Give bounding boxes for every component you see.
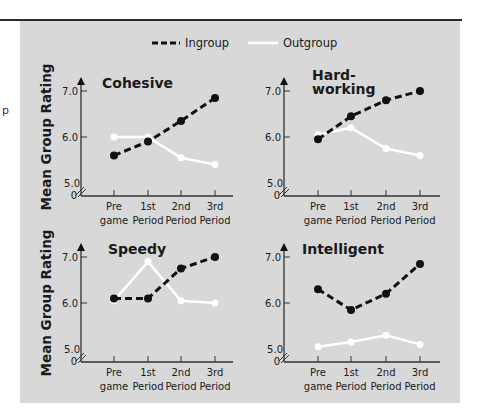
ingroup-point [416,260,424,268]
y-tick-label: 6.0 [265,132,281,143]
x-tick-label: Pre [106,201,122,212]
y-tick-label: 7.0 [265,252,281,263]
legend: IngroupOutgroup [152,36,337,50]
y-tick-label: 5.0 [267,344,283,355]
y-tick-label: 6.0 [265,298,281,309]
ingroup-point [177,117,185,125]
series-ingroup-line [318,264,420,310]
y-tick-label: 5.0 [64,178,80,189]
x-tick-label: 2nd [376,367,395,378]
ingroup-point [416,87,424,95]
outgroup-point [348,124,355,131]
ingroup-point [382,96,390,104]
outgroup-point [145,258,152,265]
outgroup-point [417,152,424,159]
y-tick-label: 7.0 [62,86,78,97]
y-tick-label: 6.0 [62,298,78,309]
x-tick-label: 3rd [207,201,224,212]
panel-title: Intelligent [302,241,384,257]
y-axis-title-top: Mean Group Rating [38,64,54,211]
ingroup-point [314,135,322,143]
x-tick-label: Period [199,215,230,226]
x-tick-label: Period [370,215,401,226]
legend-ingroup-label: Ingroup [185,36,229,50]
panel-speedy: 7.06.05.00Pregame1stPeriod2ndPeriod3rdPe… [62,241,233,392]
x-tick-label: Period [132,381,163,392]
x-tick-label: 1st [343,201,359,212]
panel-hardworking: 7.06.05.00Pregame1stPeriod2ndPeriod3rdPe… [265,67,440,226]
y-tick-label: 7.0 [265,86,281,97]
y-tick-label: 5.0 [64,344,80,355]
x-tick-label: Period [335,381,366,392]
x-tick-label: game [100,215,128,226]
outgroup-point [383,332,390,339]
y-tick-label: 7.0 [62,252,78,263]
ingroup-point [211,253,219,261]
outgroup-point [315,343,322,350]
panel-cohesive: 7.06.05.00Pregame1stPeriod2ndPeriod3rdPe… [62,75,233,226]
ingroup-point [144,138,152,146]
x-tick-label: 2nd [171,201,190,212]
outgroup-point [178,154,185,161]
figure-chart: IngroupOutgroup Mean Group RatingMean Gr… [0,0,483,420]
y-tick-label: 6.0 [62,132,78,143]
x-tick-label: 3rd [412,201,429,212]
outgroup-point [111,134,118,141]
outgroup-point [212,300,219,307]
panel-title: Cohesive [102,75,173,91]
y-axis-arrow-icon [77,77,85,85]
outgroup-point [383,145,390,152]
y-axis-title-bottom: Mean Group Rating [38,230,54,377]
outgroup-point [212,161,219,168]
origin-label: 0 [274,190,280,201]
origin-label: 0 [71,190,77,201]
chart-panels: 7.06.05.00Pregame1stPeriod2ndPeriod3rdPe… [62,67,440,392]
ingroup-point [144,294,152,302]
x-tick-label: 3rd [412,367,429,378]
panel-title: working [312,81,376,97]
outgroup-point [348,339,355,346]
panel-title: Speedy [108,241,166,257]
x-tick-label: game [304,381,332,392]
x-tick-label: 1st [140,201,156,212]
x-tick-label: Period [199,381,230,392]
series-outgroup-line [318,335,420,347]
y-axis-arrow-icon [280,77,288,85]
ingroup-point [347,112,355,120]
x-tick-label: 1st [343,367,359,378]
panel-intelligent: 7.06.05.00Pregame1stPeriod2ndPeriod3rdPe… [265,241,440,392]
x-tick-label: Pre [310,367,326,378]
outgroup-point [417,341,424,348]
ingroup-point [382,290,390,298]
x-tick-label: game [304,215,332,226]
x-tick-label: Period [165,381,196,392]
ingroup-point [314,285,322,293]
ingroup-point [347,306,355,314]
x-tick-label: Period [165,215,196,226]
x-tick-label: Period [370,381,401,392]
outgroup-point [178,297,185,304]
ingroup-point [211,94,219,102]
x-tick-label: Period [335,215,366,226]
y-axis-arrow-icon [77,243,85,251]
series-outgroup-line [318,128,420,156]
x-tick-label: 2nd [376,201,395,212]
y-tick-label: 5.0 [267,178,283,189]
x-tick-label: Period [132,215,163,226]
x-tick-label: Period [404,381,435,392]
series-ingroup-line [114,257,215,298]
x-tick-label: game [100,381,128,392]
origin-label: 0 [71,356,77,367]
x-tick-label: Period [404,215,435,226]
ingroup-point [110,151,118,159]
legend-outgroup-label: Outgroup [283,36,337,50]
x-tick-label: Pre [106,367,122,378]
y-axis-titles: Mean Group RatingMean Group Rating [38,64,54,377]
origin-label: 0 [274,356,280,367]
x-tick-label: 3rd [207,367,224,378]
x-tick-label: Pre [310,201,326,212]
y-axis-arrow-icon [280,243,288,251]
x-tick-label: 2nd [171,367,190,378]
x-tick-label: 1st [140,367,156,378]
ingroup-point [177,265,185,273]
